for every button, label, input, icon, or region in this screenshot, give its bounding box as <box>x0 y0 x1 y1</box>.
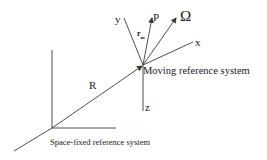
y-axis <box>124 18 143 65</box>
omega-label: Ω <box>180 9 191 24</box>
position-vector-label: rm <box>137 30 145 40</box>
P-label: P <box>153 12 159 23</box>
z-axis-label: z <box>145 102 150 113</box>
x-axis-label: x <box>195 37 201 48</box>
R-vector <box>52 66 142 128</box>
fixed-frame-caption: Space-fixed reference system <box>50 138 150 147</box>
moving-frame-caption: Moving reference system <box>143 66 250 77</box>
reference-frames-diagram: y P Ω x rm z R Moving reference system S… <box>0 0 267 160</box>
R-label: R <box>89 80 96 91</box>
diagram-lines <box>0 0 267 160</box>
fixed-depth-axis <box>14 128 52 151</box>
y-axis-label: y <box>115 14 121 25</box>
x-axis <box>143 42 193 65</box>
